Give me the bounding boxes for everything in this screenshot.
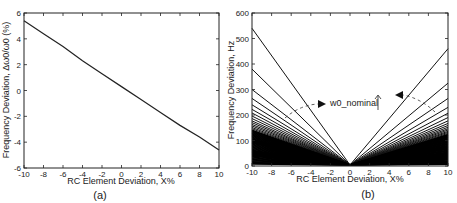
y-tick-label: 200: [236, 111, 250, 120]
y-tick-label: 500: [236, 35, 250, 44]
y-tick-label: 4: [17, 35, 22, 44]
y-tick-label: -2: [14, 112, 22, 121]
x-tick-label: -8: [40, 170, 48, 179]
x-tick-label: 6: [178, 170, 183, 179]
caption-a: (a): [93, 189, 106, 201]
annotation-label: w0_nominal: [329, 98, 378, 108]
arrow-left-icon: [395, 91, 403, 99]
x-tick-label: 10: [215, 170, 224, 179]
y-ticks-a: -6-4-20246: [14, 9, 219, 173]
x-tick-label: -6: [288, 168, 296, 177]
y-axis-label-a: Frequency Deviation, Δω0/ω0 (%): [1, 22, 11, 159]
chart-b: -10-8-6-4-20246810 0100200300400500600 w…: [226, 9, 453, 200]
plot-frame-a: [24, 13, 219, 168]
x-axis-label-b: RC Element Deviation, X%: [296, 174, 404, 184]
y-tick-label: 0: [245, 162, 250, 171]
series-lines-b: [252, 28, 448, 165]
x-tick-label: 6: [407, 168, 412, 177]
y-tick-label: -6: [14, 164, 22, 173]
y-tick-label: 2: [17, 61, 22, 70]
x-tick-label: 8: [197, 170, 202, 179]
y-tick-label: 100: [236, 137, 250, 146]
y-tick-label: 300: [236, 86, 250, 95]
x-tick-label: 8: [426, 168, 431, 177]
w0-nominal-annotation: w0_nominal: [285, 91, 435, 118]
x-tick-label: 10: [444, 168, 453, 177]
y-tick-label: 400: [236, 60, 250, 69]
y-tick-label: 600: [236, 9, 250, 18]
x-tick-label: -6: [59, 170, 67, 179]
arrow-right-icon: [318, 100, 326, 108]
y-tick-label: 6: [17, 9, 22, 18]
y-tick-label: 0: [17, 87, 22, 96]
x-axis-label-a: RC Element Deviation, X%: [67, 176, 175, 186]
caption-b: (b): [361, 188, 374, 200]
figure: -10-8-6-4-20246810 -6-4-20246 RC Element…: [0, 0, 457, 203]
series-line-a: [24, 21, 219, 150]
y-axis-label-b: Frequency Deviation, Hz: [226, 40, 236, 139]
chart-a: -10-8-6-4-20246810 -6-4-20246 RC Element…: [1, 9, 224, 201]
x-tick-label: -8: [268, 168, 276, 177]
y-tick-label: -4: [14, 138, 22, 147]
